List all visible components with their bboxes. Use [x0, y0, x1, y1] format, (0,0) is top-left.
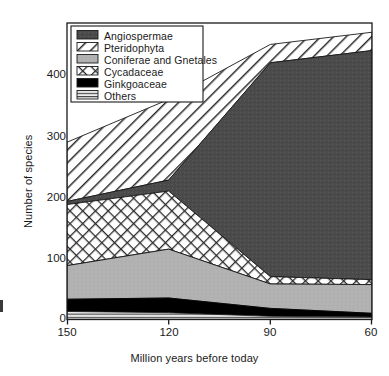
legend-label-pteridophyta: Pteridophyta — [104, 42, 164, 54]
legend-swatch-others — [77, 91, 98, 100]
legend-swatch-coniferae-and-gnetales — [77, 55, 98, 64]
legend-swatch-cycadaceae — [77, 67, 98, 76]
legend-swatch-pteridophyta — [77, 43, 98, 52]
legend-label-cycadaceae: Cycadaceae — [104, 66, 163, 78]
legend-label-angiospermae: Angiospermae — [104, 30, 173, 42]
legend-label-ginkgoaceae: Ginkgoaceae — [104, 78, 167, 90]
legend-label-coniferae-and-gnetales: Coniferae and Gnetales — [104, 54, 217, 66]
chart-figure: Number of species Million years before t… — [0, 0, 389, 376]
legend-swatch-ginkgoaceae — [77, 79, 98, 88]
legend-label-others: Others — [104, 90, 136, 102]
legend-swatch-angiospermae — [77, 31, 98, 40]
